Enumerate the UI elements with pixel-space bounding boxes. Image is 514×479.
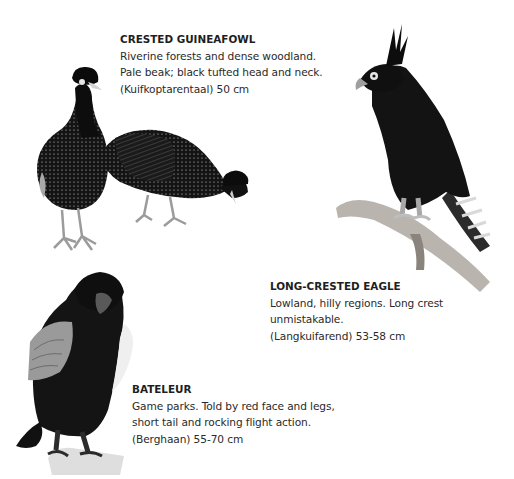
bateleur-perched-illustration <box>0 260 150 475</box>
species-entry-bateleur: BATELEUR Game parks. Told by red face an… <box>132 381 335 447</box>
standing-guineafowl-icon <box>37 67 108 250</box>
long-crested-eagle-on-branch-illustration <box>330 20 510 300</box>
species-size-line: (Berghaan) 55-70 cm <box>132 431 335 448</box>
species-description-line: unmistakable. <box>270 311 443 328</box>
species-description-line: short tail and rocking flight action. <box>132 414 335 431</box>
species-description-line: Game parks. Told by red face and legs, <box>132 398 335 415</box>
feeding-guineafowl-icon <box>100 130 248 226</box>
species-size-line: (Langkuifarend) 53-58 cm <box>270 328 443 345</box>
crested-guineafowl-pair-illustration <box>20 60 260 260</box>
species-title: BATELEUR <box>132 381 335 398</box>
species-title: CRESTED GUINEAFOWL <box>120 31 323 48</box>
